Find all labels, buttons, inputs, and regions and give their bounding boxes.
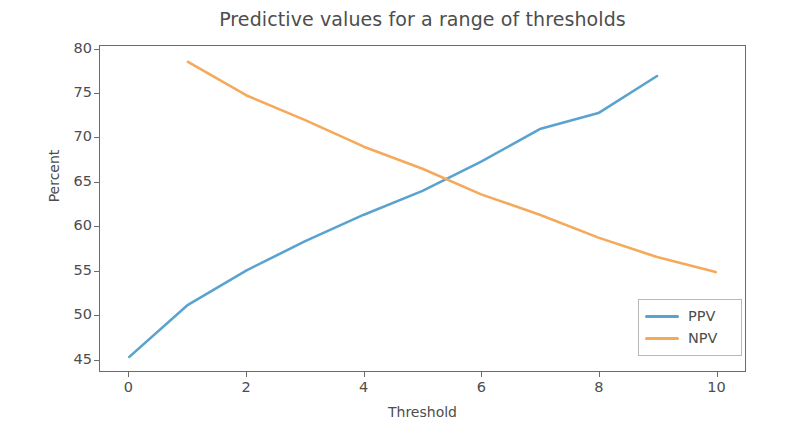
legend-item-npv[interactable]: NPV <box>645 327 735 349</box>
legend-swatch-npv-icon <box>645 337 679 340</box>
chart-title: Predictive values for a range of thresho… <box>99 8 746 30</box>
chart-figure: Predictive values for a range of thresho… <box>0 0 785 438</box>
x-axis-tick-8: 8 <box>574 380 624 395</box>
x-axis-tick-4: 4 <box>339 380 389 395</box>
series-line-ppv <box>129 76 657 357</box>
x-axis-tick-0: 0 <box>103 380 153 395</box>
x-tick-mark <box>599 372 600 377</box>
x-tick-mark <box>246 372 247 377</box>
legend-item-ppv[interactable]: PPV <box>645 305 735 327</box>
y-axis-tick-65: 65 <box>52 174 92 189</box>
x-axis-tick-2: 2 <box>221 380 271 395</box>
y-axis-tick-60: 60 <box>52 218 92 233</box>
y-axis-tick-55: 55 <box>52 263 92 278</box>
legend-swatch-ppv-icon <box>645 315 679 318</box>
y-axis-tick-50: 50 <box>52 307 92 322</box>
y-axis-tick-70: 70 <box>52 129 92 144</box>
y-axis-tick-75: 75 <box>52 85 92 100</box>
x-axis-tick-10: 10 <box>692 380 742 395</box>
x-axis-label: Threshold <box>99 404 746 420</box>
y-axis-tick-45: 45 <box>52 352 92 367</box>
x-axis-tick-6: 6 <box>456 380 506 395</box>
x-tick-mark <box>364 372 365 377</box>
x-tick-mark <box>717 372 718 377</box>
series-line-npv <box>188 62 716 272</box>
chart-legend: PPVNPV <box>638 299 742 356</box>
legend-label: NPV <box>688 331 718 346</box>
x-tick-mark <box>128 372 129 377</box>
y-axis-tick-80: 80 <box>52 41 92 56</box>
legend-label: PPV <box>688 309 715 324</box>
x-tick-mark <box>481 372 482 377</box>
